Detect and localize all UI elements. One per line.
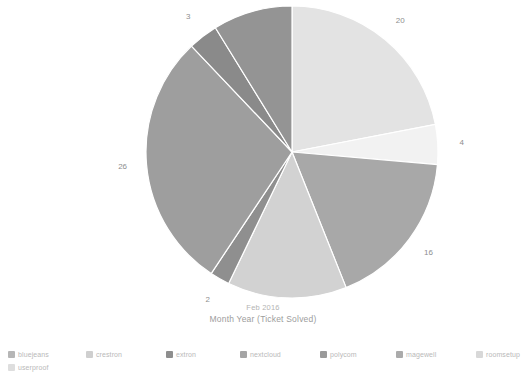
legend-label: extron — [176, 351, 196, 358]
legend-label: crestron — [96, 351, 122, 358]
legend-swatch — [396, 351, 403, 358]
legend-item[interactable]: polycom — [320, 348, 357, 361]
chart-subtitle: Feb 2016 — [0, 302, 526, 313]
legend-swatch — [476, 351, 483, 358]
chart-legend: bluejeanscrestronextronnextcloudpolycomm… — [0, 345, 526, 374]
pie-slice-group — [146, 6, 438, 298]
legend-label: nextcloud — [250, 351, 281, 358]
pie-slice-label: 4 — [460, 138, 465, 147]
legend-swatch — [320, 351, 327, 358]
legend-label: roomsetup — [486, 351, 520, 358]
legend-item[interactable]: magewell — [396, 348, 436, 361]
legend-item[interactable]: bluejeans — [8, 348, 49, 361]
legend-item[interactable]: nextcloud — [240, 348, 281, 361]
pie-slice-label: 20 — [396, 16, 405, 25]
legend-swatch — [8, 364, 15, 371]
pie-slice-label: 3 — [186, 12, 191, 21]
legend-swatch — [86, 351, 93, 358]
chart-caption: Feb 2016 Month Year (Ticket Solved) — [0, 302, 526, 325]
pie-slice-label: 26 — [118, 162, 127, 171]
pie-svg: 204161222638 — [0, 0, 526, 310]
pie-chart-figure: 204161222638 Feb 2016 Month Year (Ticket… — [0, 0, 526, 374]
pie-slice-label: 16 — [424, 248, 433, 257]
legend-label: magewell — [406, 351, 436, 358]
legend-item[interactable]: extron — [166, 348, 196, 361]
legend-item[interactable]: roomsetup — [476, 348, 520, 361]
legend-label: polycom — [330, 351, 357, 358]
legend-item[interactable]: userproof — [8, 361, 48, 374]
legend-label: userproof — [18, 364, 48, 371]
chart-axis-title: Month Year (Ticket Solved) — [0, 313, 526, 325]
legend-swatch — [8, 351, 15, 358]
pie-plot-area: 204161222638 — [0, 0, 526, 310]
legend-swatch — [166, 351, 173, 358]
legend-swatch — [240, 351, 247, 358]
legend-label: bluejeans — [18, 351, 49, 358]
legend-item[interactable]: crestron — [86, 348, 122, 361]
